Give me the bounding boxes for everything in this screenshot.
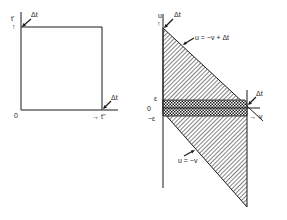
right-panel: u ↑ Δt u = −v + Δt Δt ε 0 −ε → v u = −v xyxy=(147,11,263,207)
top-delta-t-label: Δt xyxy=(174,11,181,18)
diagram-canvas: t' ↑ 0 → t'' Δt Δt u ↑ Δt u = −v + Δt Δt xyxy=(0,0,287,220)
t-prime-label: t' xyxy=(11,15,14,22)
top-delta-t-label: Δt xyxy=(31,11,38,18)
t-double-prime-label: t'' xyxy=(101,113,106,120)
v-label: v xyxy=(259,113,263,120)
right-delta-t-label: Δt xyxy=(111,94,118,101)
right-delta-t-label: Δt xyxy=(256,90,263,97)
origin-label: 0 xyxy=(147,105,151,112)
neg-epsilon-label: −ε xyxy=(148,115,155,122)
right-arrow-icon: → xyxy=(92,113,99,120)
lower-line-label: u = −v xyxy=(178,157,198,164)
up-arrow-icon: ↑ xyxy=(12,23,16,30)
hatched-region xyxy=(163,28,247,207)
left-panel: t' ↑ 0 → t'' Δt Δt xyxy=(11,11,118,120)
origin-label: 0 xyxy=(14,112,18,119)
upper-line-label: u = −v + Δt xyxy=(195,34,229,41)
up-arrow-icon: ↑ xyxy=(157,20,161,27)
epsilon-label: ε xyxy=(154,95,157,102)
right-arrow-icon: → xyxy=(249,113,256,120)
u-label: u xyxy=(158,12,162,19)
